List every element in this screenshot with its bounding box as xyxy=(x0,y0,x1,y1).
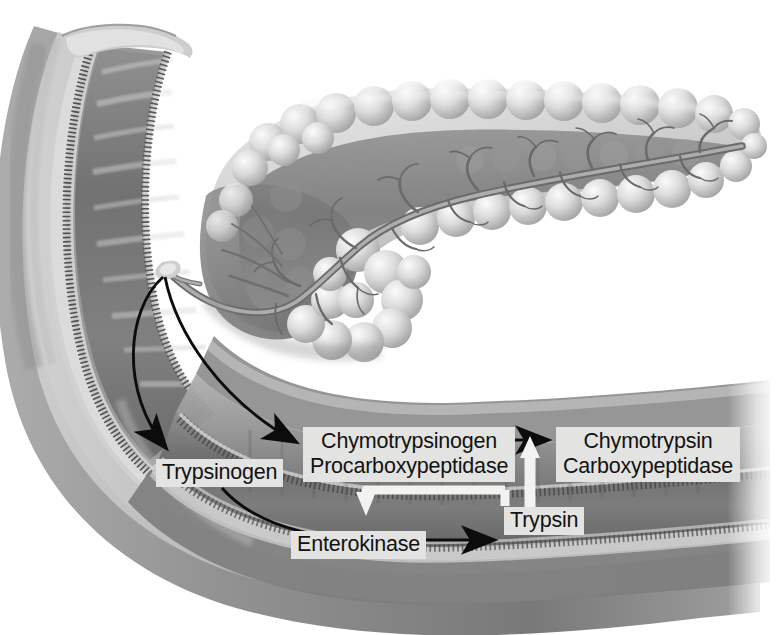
label-active-enzymes[interactable]: Chymotrypsin Carboxypeptidase xyxy=(556,427,740,482)
label-pancreatic-proenzymes[interactable]: Chymotrypsinogen Procarboxypeptidase xyxy=(303,427,515,482)
label-carboxypeptidase: Carboxypeptidase xyxy=(563,454,733,479)
label-enterokinase[interactable]: Enterokinase xyxy=(291,531,426,559)
label-chymotrypsinogen: Chymotrypsinogen xyxy=(310,429,508,454)
label-trypsinogen[interactable]: Trypsinogen xyxy=(156,459,283,487)
label-procarboxypeptidase: Procarboxypeptidase xyxy=(310,454,508,479)
figure-canvas: Trypsinogen Chymotrypsinogen Procarboxyp… xyxy=(0,0,777,635)
label-chymotrypsin: Chymotrypsin xyxy=(563,429,733,454)
label-trypsin[interactable]: Trypsin xyxy=(504,507,584,535)
